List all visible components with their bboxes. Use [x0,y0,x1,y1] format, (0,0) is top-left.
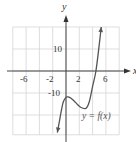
y-tick-neg10: -10 [48,88,60,98]
x-tick-2: 2 [76,74,81,84]
y-tick-10: 10 [53,44,63,54]
y-axis-arrow-icon [64,15,69,22]
curve-arrow-down-icon [56,127,61,132]
curve-label: y = f(x) [81,111,111,122]
x-axis-label: x [132,65,136,76]
x-tick-6: 6 [103,74,108,84]
x-axis-arrow-icon [124,69,131,74]
function-graph: y x -6 -2 2 6 10 -10 y = f(x) [0,0,136,142]
x-tick-neg2: -2 [46,74,54,84]
x-tick-neg6: -6 [20,74,28,84]
y-axis-label: y [61,1,67,12]
